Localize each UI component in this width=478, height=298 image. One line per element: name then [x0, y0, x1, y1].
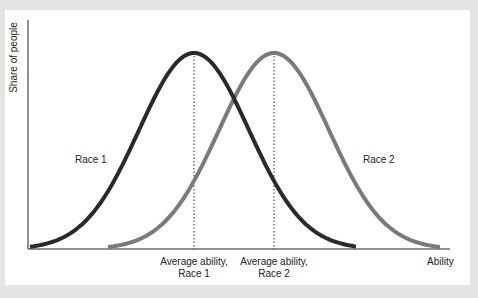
- y-axis-label: Share of people: [8, 22, 19, 93]
- x-axis-label: Ability: [427, 256, 454, 267]
- chart-plot: [0, 0, 478, 298]
- race2-label: Race 2: [363, 154, 395, 165]
- avg-race2-line2: Race 2: [224, 268, 324, 280]
- avg-race2-label: Average ability, Race 2: [224, 256, 324, 280]
- avg-race2-line1: Average ability,: [224, 256, 324, 268]
- race1-label: Race 1: [75, 154, 107, 165]
